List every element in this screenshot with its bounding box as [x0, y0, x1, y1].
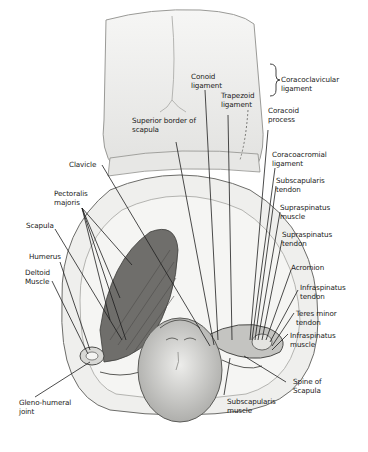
- label-subscapularis-muscle: Subscapularis muscle: [227, 398, 276, 415]
- label-scapula: Scapula: [26, 222, 54, 231]
- label-clavicle: Clavicle: [69, 161, 96, 170]
- label-pectoralis-majoris: Pectoralis majoris: [54, 190, 88, 207]
- label-supraspinatus-tendon: Supraspinatus tendon: [282, 231, 332, 248]
- label-superior-border-of-scapula: Superior border of scapula: [132, 117, 196, 134]
- head-drawing: [138, 318, 222, 422]
- label-trapezoid-ligament: Trapezoid ligament: [221, 92, 255, 109]
- label-humerus: Humerus: [29, 253, 61, 262]
- label-infraspinatus-muscle: Infraspinatus muscle: [290, 332, 336, 349]
- label-coracoclavicular-ligament: Coracoclavicular ligament: [281, 76, 339, 93]
- label-coracoacromial-ligament: Coracoacromial ligament: [272, 151, 327, 168]
- label-supraspinatus-muscle: Supraspinatus muscle: [280, 204, 330, 221]
- label-acromion: Acromion: [291, 264, 324, 273]
- label-subscapularis-tendon: Subscapularis tendon: [276, 177, 325, 194]
- label-spine-of-scapula: Spine of Scapula: [293, 378, 322, 395]
- anatomy-figure: Conoid ligament Coracoclavicular ligamen…: [0, 0, 368, 452]
- label-conoid-ligament: Conoid ligament: [191, 73, 222, 90]
- label-deltoid-muscle: Deltoid Muscle: [25, 269, 50, 286]
- label-teres-minor-tendon: Teres minor tendon: [296, 310, 337, 327]
- label-gleno-humeral-joint: Gleno-humeral joint: [19, 399, 71, 416]
- coracoclavicular-brace: [270, 64, 280, 96]
- label-infraspinatus-tendon: Infraspinatus tendon: [300, 284, 346, 301]
- label-coracoid-process: Coracoid process: [268, 107, 299, 124]
